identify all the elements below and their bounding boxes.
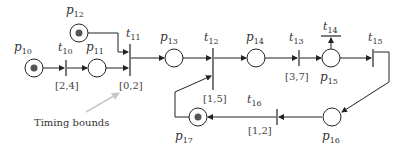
annotation-arrow bbox=[86, 93, 119, 112]
label-t13: t13 bbox=[289, 31, 304, 46]
label-p11: p11 bbox=[86, 40, 104, 56]
label-p13: p13 bbox=[160, 30, 178, 46]
label-t10: t10 bbox=[58, 41, 73, 56]
token-p12 bbox=[76, 30, 83, 37]
label-p14: p14 bbox=[246, 30, 264, 46]
label-p16: p16 bbox=[322, 129, 340, 145]
label-t14: t14 bbox=[323, 20, 338, 35]
label-t11: t11 bbox=[126, 27, 141, 42]
petri-net-diagram: p10 p11 p12 p13 p14 p15 p16 p17 t10 t11 … bbox=[0, 0, 401, 149]
annotation-timing-bounds: Timing bounds bbox=[34, 117, 109, 128]
label-p10: p10 bbox=[14, 40, 32, 56]
label-p17: p17 bbox=[175, 129, 193, 145]
place-p14[interactable] bbox=[247, 49, 265, 67]
token-p17 bbox=[195, 114, 202, 121]
place-p15[interactable] bbox=[322, 49, 340, 67]
bound-t16: [1,2] bbox=[248, 125, 272, 136]
arc-t15-p16 bbox=[342, 52, 389, 112]
place-p11[interactable] bbox=[88, 59, 106, 77]
bound-t12: [1,5] bbox=[203, 93, 227, 104]
place-p13[interactable] bbox=[165, 49, 183, 67]
bound-t13: [3,7] bbox=[285, 71, 309, 82]
label-p12: p12 bbox=[66, 3, 84, 19]
bound-t10: [2,4] bbox=[55, 80, 79, 91]
label-p15: p15 bbox=[320, 70, 338, 86]
place-p16[interactable] bbox=[323, 108, 341, 126]
label-t15: t15 bbox=[368, 31, 383, 46]
label-t16: t16 bbox=[247, 93, 262, 108]
label-t12: t12 bbox=[204, 31, 219, 46]
bound-t11: [0,2] bbox=[119, 80, 143, 91]
token-p10 bbox=[31, 65, 38, 72]
